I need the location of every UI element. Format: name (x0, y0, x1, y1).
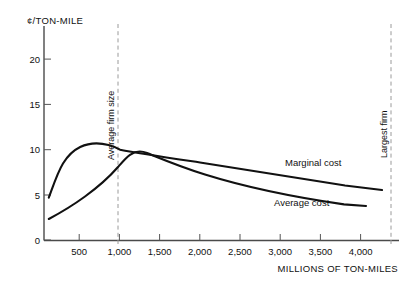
x-tick-1000: 1,000 (108, 234, 132, 257)
y-tick-label-20: 20 (29, 54, 40, 65)
marker-average-firm-size: Average firm size (106, 24, 118, 245)
marker-largest-firm: Largest firm (379, 24, 391, 245)
x-tick-3500: 3,500 (309, 234, 333, 257)
x-axis-group: 500 1,000 1,500 2,000 2,500 3,000 (44, 234, 399, 274)
x-tick-label-2000: 2,000 (188, 246, 212, 257)
y-tick-15: 15 (29, 99, 51, 110)
x-tick-4000: 4,000 (349, 234, 373, 257)
y-tick-label-15: 15 (29, 99, 40, 110)
marginal-cost-label: Marginal cost (285, 157, 342, 168)
x-tick-3000: 3,000 (268, 234, 292, 257)
y-tick-label-5: 5 (35, 190, 40, 201)
x-tick-label-3500: 3,500 (309, 246, 333, 257)
x-tick-label-1500: 1,500 (148, 246, 172, 257)
x-tick-label-3000: 3,000 (268, 246, 292, 257)
x-tick-label-500: 500 (71, 246, 87, 257)
cost-curves-chart: 0 5 10 15 20 ¢/TON-MILE (0, 0, 418, 281)
marginal-cost-curve (49, 143, 382, 197)
y-tick-label-0: 0 (35, 235, 40, 246)
x-axis-title: MILLIONS OF TON-MILES (278, 263, 399, 274)
largest-firm-label: Largest firm (379, 110, 389, 158)
x-tick-label-2500: 2,500 (228, 246, 252, 257)
average-firm-size-label: Average firm size (106, 91, 116, 160)
x-tick-label-1000: 1,000 (108, 246, 132, 257)
y-tick-20: 20 (29, 54, 51, 65)
chart-canvas: 0 5 10 15 20 ¢/TON-MILE (0, 0, 418, 281)
y-tick-10: 10 (29, 144, 51, 155)
average-cost-label: Average cost (274, 197, 330, 208)
x-tick-label-4000: 4,000 (349, 246, 373, 257)
y-axis-group: 0 5 10 15 20 ¢/TON-MILE (27, 15, 83, 246)
x-tick-500: 500 (71, 234, 87, 257)
x-tick-2500: 2,500 (228, 234, 252, 257)
x-tick-2000: 2,000 (188, 234, 212, 257)
x-tick-1500: 1,500 (148, 234, 172, 257)
y-tick-label-10: 10 (29, 144, 40, 155)
y-tick-5: 5 (35, 190, 51, 201)
y-axis-title: ¢/TON-MILE (27, 15, 83, 26)
